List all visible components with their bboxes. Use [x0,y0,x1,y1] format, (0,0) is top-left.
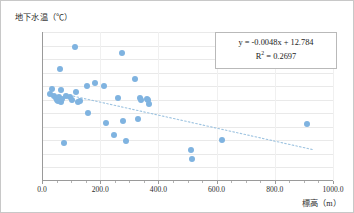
x-axis-minor-tick [318,181,319,183]
data-point [115,95,121,101]
x-axis-tick-mark [275,181,276,184]
x-axis-minor-tick [71,181,72,183]
x-axis-tick-mark [42,181,43,184]
x-axis-minor-tick [129,181,130,183]
gridline [42,167,333,168]
x-axis-tick-label: 0.0 [20,185,64,194]
data-point [146,101,152,107]
gridline [42,73,333,74]
x-axis-tick-label: 800.0 [253,185,297,194]
x-axis-minor-tick [86,181,87,183]
data-point [189,156,195,162]
data-point [57,66,63,72]
x-axis-tick-mark [217,181,218,184]
data-point [61,140,67,146]
x-axis-minor-tick [188,181,189,183]
x-axis-tick-label: 1000.0 [311,185,354,194]
data-point [304,121,310,127]
data-point [92,80,98,86]
y-axis-line [42,32,43,181]
x-axis-minor-tick [115,181,116,183]
data-point [49,86,55,92]
gridline [42,127,333,128]
data-point [103,120,109,126]
data-point [101,83,107,89]
data-point [72,44,78,50]
data-point [219,137,225,143]
x-axis-minor-tick [202,181,203,183]
data-point [120,118,126,124]
x-axis-tick-mark [100,181,101,184]
vertical-gridline [158,32,159,181]
x-axis-tick-label: 200.0 [78,185,122,194]
x-axis-title: 標高（m） [302,196,341,208]
x-axis-minor-tick [57,181,58,183]
data-point [85,110,91,116]
gridline [42,100,333,101]
y-axis-title: 地下水温（℃） [15,10,72,22]
x-axis-minor-tick [144,181,145,183]
data-point [73,89,79,95]
data-point [188,147,194,153]
x-axis-tick-label: 600.0 [195,185,239,194]
x-axis-line [42,180,333,181]
x-axis-minor-tick [246,181,247,183]
vertical-gridline [100,32,101,181]
gridline [42,140,333,141]
data-point [135,116,141,122]
gridline [42,154,333,155]
x-axis-minor-tick [289,181,290,183]
regression-equation: y = -0.0048x + 12.784 [220,37,332,49]
x-axis-tick-mark [158,181,159,184]
data-point [119,50,125,56]
x-axis-minor-tick [304,181,305,183]
data-point [77,98,83,104]
x-axis-minor-tick [260,181,261,183]
x-axis-minor-tick [231,181,232,183]
x-axis-tick-mark [333,181,334,184]
data-point [132,76,138,82]
data-point [111,132,117,138]
r-squared-value: R2 = 0.2697 [220,49,332,63]
x-axis-tick-label: 400.0 [136,185,180,194]
data-point [123,138,129,144]
data-point [84,83,90,89]
r-squared-number: = 0.2697 [264,52,296,61]
x-axis-minor-tick [173,181,174,183]
data-point [58,87,64,93]
scatter-chart: 地下水温（℃） 6.07.08.09.010.011.012.013.014.0… [0,0,354,213]
regression-equation-box: y = -0.0048x + 12.784 R2 = 0.2697 [215,32,337,69]
